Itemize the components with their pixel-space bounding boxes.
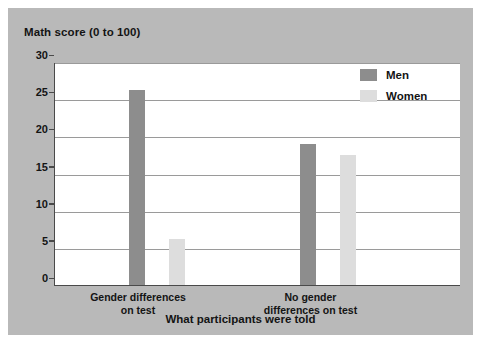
xaxis-title: What participants were told [8, 313, 473, 325]
chart-figure-panel: Math score (0 to 100) Men Women [8, 8, 473, 335]
bar-women-no-gender-differences [340, 155, 356, 285]
yaxis-tick-10: 10 [18, 198, 48, 210]
gridline-10 [55, 212, 460, 213]
yaxis-tickmark-20 [49, 129, 54, 131]
yaxis-tickmark-25 [49, 92, 54, 94]
gridline-30 [55, 63, 460, 64]
legend-swatch-women-icon [360, 90, 377, 102]
yaxis-tickmark-0 [49, 278, 54, 280]
gridline-5 [55, 249, 460, 250]
yaxis-tick-30: 30 [18, 49, 48, 61]
yaxis-tick-group: 30 25 20 15 10 5 0 [8, 8, 48, 346]
gridline-15 [55, 175, 460, 176]
category-label-line1: Gender differences [58, 291, 218, 304]
yaxis-tickmark-15 [49, 166, 54, 168]
legend-label-men: Men [386, 69, 409, 81]
gridline-20 [55, 137, 460, 138]
yaxis-tick-25: 25 [18, 86, 48, 98]
yaxis-tick-15: 15 [18, 161, 48, 173]
plot-area: Men Women [54, 63, 460, 286]
yaxis-tickmark-30 [49, 55, 54, 57]
chart-legend: Men Women [360, 66, 455, 108]
yaxis-tick-20: 20 [18, 123, 48, 135]
legend-label-women: Women [386, 90, 427, 102]
bar-men-no-gender-differences [300, 144, 316, 285]
legend-swatch-men-icon [360, 69, 377, 81]
yaxis-tick-5: 5 [18, 235, 48, 247]
legend-item-men: Men [360, 66, 455, 83]
category-label-line1: No gender [223, 291, 398, 304]
yaxis-tickmark-10 [49, 203, 54, 205]
yaxis-tickmark-5 [49, 240, 54, 242]
bar-women-gender-differences [169, 239, 185, 285]
bar-men-gender-differences [129, 90, 145, 286]
legend-item-women: Women [360, 87, 455, 104]
yaxis-tick-0: 0 [18, 272, 48, 284]
